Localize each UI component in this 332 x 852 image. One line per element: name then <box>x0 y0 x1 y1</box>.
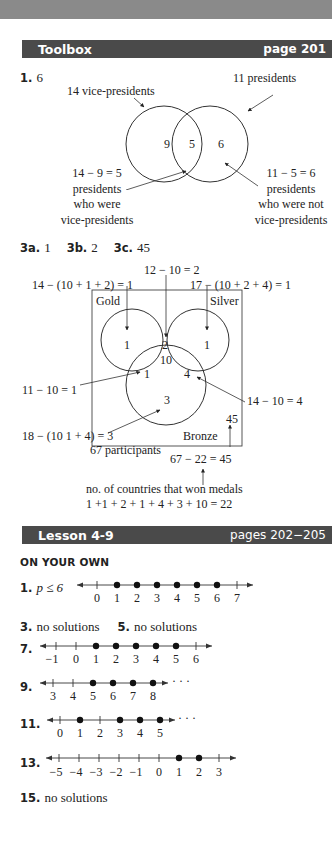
svg-text:5: 5 <box>173 652 179 666</box>
right-explanation: 11 − 5 = 6 presidents who were not vice-… <box>246 166 332 228</box>
gold-silver-calc: 12 − 10 = 2 <box>144 263 200 278</box>
label-presidents: 11 presidents <box>233 71 296 86</box>
item-1-number: 1. <box>20 581 32 595</box>
item-5-answer: no solutions <box>134 619 197 634</box>
item-3-answer: no solutions <box>36 619 99 634</box>
lesson-item-1: 1. p ≤ 6 <box>20 578 63 596</box>
svg-text:3: 3 <box>117 726 123 740</box>
problem-3-answers: 3a. 1 3b. 2 3c. 45 <box>20 238 150 256</box>
svg-text:2: 2 <box>196 765 202 779</box>
svg-text:−5: −5 <box>50 765 63 779</box>
svg-text:6: 6 <box>110 689 116 703</box>
lesson-title: Lesson 4-9 <box>38 528 114 543</box>
svg-text:0: 0 <box>94 591 100 605</box>
svg-text:8: 8 <box>150 689 156 703</box>
number-line-item-7: −10123456 <box>38 636 218 666</box>
svg-text:3: 3 <box>133 652 139 666</box>
silver-label: Silver <box>210 294 239 309</box>
svg-text:−1: −1 <box>46 652 59 666</box>
toolbox-header: Toolbox page 201 <box>22 40 332 58</box>
svg-text:2: 2 <box>97 726 103 740</box>
right-desc-2: who were not <box>246 197 332 213</box>
svg-text:−4: −4 <box>70 765 83 779</box>
svg-text:4: 4 <box>137 726 143 740</box>
gold-only-calc: 14 − (10 + 1 + 2) = 1 <box>32 278 133 293</box>
svg-text:1: 1 <box>114 591 120 605</box>
lesson-item-15: 15. no solutions <box>20 788 108 806</box>
svg-text:3: 3 <box>50 689 56 703</box>
svg-text:1: 1 <box>93 652 99 666</box>
lesson-header: Lesson 4-9 pages 202−205 <box>22 526 332 544</box>
top-gray-band <box>0 0 332 19</box>
region-vp-only: 9 <box>164 137 170 152</box>
problem-3a-number: 3a. <box>20 241 40 255</box>
silver-only-calc: 17 − (10 + 2 + 4) = 1 <box>190 278 291 293</box>
svg-text:3: 3 <box>154 591 160 605</box>
left-explanation: 14 − 9 = 5 presidents who were vice-pres… <box>52 166 142 228</box>
problem-3b-answer: 2 <box>91 240 98 255</box>
item-9-number: 9. <box>20 680 32 694</box>
region-gold-only: 1 <box>124 338 130 353</box>
item-11-ellipsis: · · · <box>178 711 196 726</box>
svg-text:0: 0 <box>73 652 79 666</box>
item-15-answer: no solutions <box>44 790 107 805</box>
region-bronze-only: 3 <box>164 393 170 408</box>
region-gold-silver: 2 <box>162 338 168 353</box>
participants-label: 67 participants <box>90 443 161 458</box>
item-13-number: 13. <box>20 756 40 770</box>
region-president-only: 6 <box>218 137 224 152</box>
region-both: 5 <box>189 137 195 152</box>
on-your-own-heading: ON YOUR OWN <box>20 556 109 568</box>
bronze-only-calc: 18 − (10 1 + 4) = 3 <box>22 429 113 444</box>
svg-text:0: 0 <box>156 765 162 779</box>
left-calc: 14 − 9 = 5 <box>52 166 142 182</box>
svg-text:5: 5 <box>157 726 163 740</box>
bronze-label: Bronze <box>183 429 218 444</box>
left-desc-1: presidents <box>52 182 142 198</box>
svg-text:−2: −2 <box>110 765 123 779</box>
item-1-answer: p ≤ 6 <box>36 580 63 595</box>
region-silver-bronze: 4 <box>184 367 190 382</box>
region-gold-bronze: 1 <box>144 367 150 382</box>
svg-text:1: 1 <box>77 726 83 740</box>
svg-text:7: 7 <box>234 591 240 605</box>
svg-text:−1: −1 <box>130 765 143 779</box>
number-line-item-13: −5−4−3−2−10123 <box>44 750 244 780</box>
right-desc-1: presidents <box>246 182 332 198</box>
item-7-number: 7. <box>20 642 32 656</box>
won-medals-label: no. of countries that won medals <box>86 482 243 497</box>
svg-text:2: 2 <box>113 652 119 666</box>
outside-calc: 67 − 22 = 45 <box>170 452 232 467</box>
right-desc-3: vice-presidents <box>246 213 332 229</box>
lesson-items-3-5: 3. no solutions 5. no solutions <box>20 617 197 635</box>
left-desc-3: vice-presidents <box>52 213 142 229</box>
toolbox-title: Toolbox <box>38 42 92 57</box>
outside-value: 45 <box>226 412 238 427</box>
svg-text:4: 4 <box>70 689 76 703</box>
svg-text:4: 4 <box>174 591 180 605</box>
item-5-number: 5. <box>118 620 130 634</box>
svg-text:2: 2 <box>134 591 140 605</box>
svg-text:1: 1 <box>176 765 182 779</box>
region-all-three: 10 <box>160 353 172 368</box>
svg-text:3: 3 <box>216 765 222 779</box>
problem-3b-number: 3b. <box>67 241 88 255</box>
svg-text:5: 5 <box>194 591 200 605</box>
item-15-number: 15. <box>20 791 40 805</box>
item-11-number: 11. <box>20 717 40 731</box>
svg-text:7: 7 <box>130 689 136 703</box>
problem-3c-answer: 45 <box>137 240 150 255</box>
silver-bronze-calc: 14 − 10 = 4 <box>247 394 303 409</box>
problem-3c-number: 3c. <box>114 241 133 255</box>
won-medals-sum: 1 +1 + 2 + 1 + 4 + 3 + 10 = 22 <box>86 497 232 512</box>
svg-text:4: 4 <box>153 652 159 666</box>
gold-bronze-calc: 11 − 10 = 1 <box>22 383 77 398</box>
label-vice-presidents: 14 vice-presidents <box>67 84 155 99</box>
right-calc: 11 − 5 = 6 <box>246 166 332 182</box>
svg-text:−3: −3 <box>90 765 103 779</box>
svg-text:6: 6 <box>193 652 199 666</box>
toolbox-page: page 201 <box>263 42 326 56</box>
problem-3a-answer: 1 <box>44 240 51 255</box>
svg-text:6: 6 <box>214 591 220 605</box>
number-line-item-1: 01234567 <box>75 575 255 605</box>
